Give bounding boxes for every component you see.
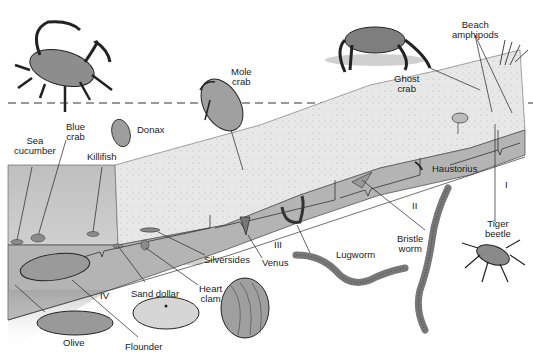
label-killifish: Killifish <box>87 152 117 162</box>
label-sea-cucumber: Sea cucumber <box>14 136 56 156</box>
label-beach-amphipods: Beach amphipods <box>452 20 498 40</box>
zone-label-iii: III <box>274 240 282 250</box>
donax-illustration <box>109 117 134 149</box>
label-lugworm: Lugworm <box>336 250 375 260</box>
beach-zonation-diagram: Blue crab Donax Mole crab Ghost crab Bea… <box>0 0 533 357</box>
label-donax: Donax <box>137 125 164 135</box>
label-silversides: Silversides <box>204 255 250 265</box>
label-blue-crab: Blue crab <box>66 122 85 142</box>
zone-label-i: I <box>505 180 508 190</box>
zone-label-iv: IV <box>100 291 109 301</box>
zone-label-ii: II <box>412 201 417 211</box>
diagram-canvas <box>0 0 533 357</box>
label-sand-dollar: Sand dollar <box>131 289 179 299</box>
blue-crab-illustration <box>15 22 112 112</box>
label-olive: Olive <box>63 338 85 348</box>
label-ghost-crab: Ghost crab <box>394 74 419 94</box>
label-tiger-beetle: Tiger beetle <box>485 219 511 239</box>
sand-beach-surface <box>115 50 525 245</box>
label-mole-crab: Mole crab <box>231 67 252 87</box>
label-heart-clam: Heart clam <box>199 284 222 304</box>
label-bristle-worm: Bristle worm <box>397 234 423 254</box>
label-flounder: Flounder <box>125 342 163 352</box>
label-venus: Venus <box>262 258 288 268</box>
label-haustorius: Haustorius <box>432 164 477 174</box>
